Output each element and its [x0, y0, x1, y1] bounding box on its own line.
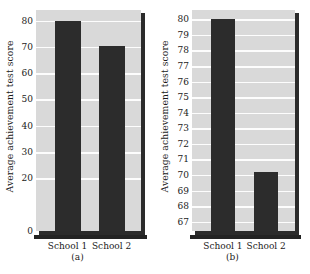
panel-a: Average achievement test score 020304050…: [0, 0, 155, 274]
y-tick-label: 72: [178, 139, 189, 148]
bar-school-1: [211, 19, 235, 231]
gridline: [36, 73, 141, 75]
y-tick-label: 79: [178, 30, 189, 39]
gridline: [192, 175, 295, 177]
gridline: [36, 99, 141, 101]
bar-school-2: [254, 172, 278, 231]
x-tick-label: School 1: [48, 241, 87, 251]
gridline: [192, 66, 295, 68]
gridline: [192, 128, 295, 130]
gridline: [192, 113, 295, 115]
y-tick-label: 70: [178, 170, 189, 179]
bar-school-1: [55, 21, 81, 231]
panel-caption-b: (b): [155, 252, 310, 262]
y-tick-label: 70: [22, 42, 33, 51]
gridline: [36, 21, 141, 23]
y-tick-label: 40: [22, 121, 33, 130]
gridline: [192, 50, 295, 52]
gridline: [192, 159, 295, 161]
gridline: [36, 126, 141, 128]
gridline: [192, 97, 295, 99]
y-tick-label: 74: [178, 108, 189, 117]
y-tick-label: 69: [178, 186, 189, 195]
y-tick-label: 30: [22, 148, 33, 157]
gridline: [192, 191, 295, 193]
panel-caption-a: (a): [0, 252, 155, 262]
gridline: [192, 35, 295, 37]
y-tick-label: 67: [178, 217, 189, 226]
gridline: [192, 19, 295, 21]
x-tick-label: School 1: [203, 241, 242, 251]
gridline: [36, 47, 141, 49]
y-tick-label: 75: [178, 93, 189, 102]
y-tick-label: 50: [22, 95, 33, 104]
figure-two-bar-charts: Average achievement test score 020304050…: [0, 0, 310, 274]
y-tick-label: 76: [178, 77, 189, 86]
x-tick-label: School 2: [92, 241, 131, 251]
x-tick-label: School 2: [247, 241, 286, 251]
y-tick-label: 0: [27, 227, 33, 236]
bar-school-2: [99, 46, 125, 231]
y-tick-label: 78: [178, 46, 189, 55]
y-axis-tick-labels-a: 020304050607080: [0, 0, 33, 232]
y-tick-label: 20: [22, 174, 33, 183]
gridline: [36, 152, 141, 154]
gridline: [192, 82, 295, 84]
gridline: [36, 178, 141, 180]
y-tick-label: 71: [178, 155, 189, 164]
plot-area-b: [192, 10, 295, 231]
plot-area-a: [36, 10, 141, 231]
y-tick-label: 77: [178, 62, 189, 71]
y-tick-label: 60: [22, 69, 33, 78]
x-axis-b: [190, 235, 301, 239]
y-tick-label: 80: [178, 15, 189, 24]
gridline: [192, 144, 295, 146]
gridline: [192, 222, 295, 224]
panel-b: Average achievement test score 676869707…: [155, 0, 310, 274]
y-tick-label: 73: [178, 124, 189, 133]
x-axis-a: [34, 235, 147, 239]
y-axis-tick-labels-b: 6768697071727374757677787980: [155, 0, 189, 232]
gridline: [192, 206, 295, 208]
y-tick-label: 80: [22, 16, 33, 25]
y-tick-label: 68: [178, 202, 189, 211]
